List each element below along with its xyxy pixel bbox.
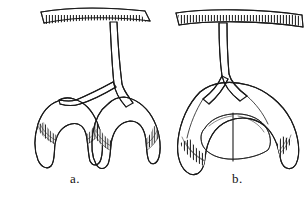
panel-a-label: a. (70, 172, 80, 185)
line-drawing-canvas (0, 0, 307, 197)
panel-b-label: b. (232, 172, 243, 185)
panel-b-drawing (175, 10, 305, 175)
panel-a-drawing (35, 8, 162, 168)
figure-illustration: a. b. (0, 0, 307, 197)
panel-a-left-branch (59, 82, 116, 106)
panel-b-arch-body (178, 82, 299, 174)
panel-a-top-bar (40, 8, 152, 25)
panel-a-bar-hatching (40, 15, 152, 25)
panel-a-stem (110, 22, 133, 107)
panel-a-right-hook (92, 97, 162, 169)
panel-b-stem (203, 23, 247, 104)
panel-b-top-bar (175, 10, 305, 27)
